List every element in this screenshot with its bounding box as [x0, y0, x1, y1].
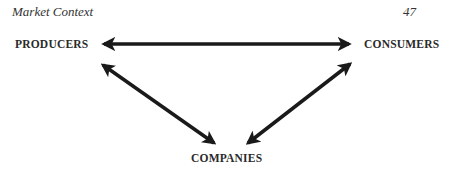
node-producers: PRODUCERS: [15, 38, 88, 50]
node-companies: COMPANIES: [191, 152, 262, 164]
arrow-consumers-companies: [248, 64, 350, 143]
arrow-producers-companies: [103, 65, 214, 143]
node-consumers: CONSUMERS: [364, 38, 439, 50]
